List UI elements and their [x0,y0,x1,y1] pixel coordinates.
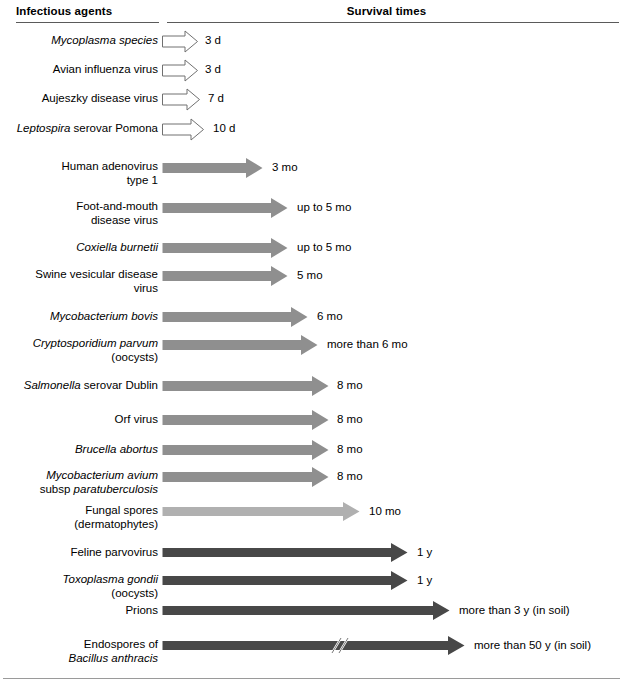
survival-arrow-5 [162,197,290,219]
survival-value-13: 8 mo [337,470,363,482]
survival-arrow-16 [162,570,410,591]
survival-arrow-4 [162,157,265,179]
row-label-7: Swine vesicular diseasevirus [0,268,158,295]
survival-value-3: 10 d [213,122,235,134]
survival-value-4: 3 mo [272,161,298,173]
survival-value-16: 1 y [417,574,432,586]
survival-value-8: 6 mo [317,310,343,322]
row-label-2: Aujeszky disease virus [0,92,158,106]
survival-arrow-0 [162,30,200,53]
row-label-3: Leptospira serovar Pomona [0,122,158,136]
survival-value-11: 8 mo [337,413,363,425]
row-label-10: Salmonella serovar Dublin [0,379,158,393]
survival-arrow-2 [162,88,202,111]
survival-value-12: 8 mo [337,443,363,455]
column-header-survival-times: Survival times [0,5,623,17]
survival-arrow-12 [162,439,331,461]
survival-arrow-6 [162,237,290,259]
survival-arrow-11 [162,409,331,431]
survival-value-18: more than 50 y (in soil) [474,639,591,651]
survival-value-5: up to 5 mo [297,201,351,213]
survival-arrow-9 [162,334,320,356]
header-rule-right [167,22,619,23]
survival-value-9: more than 6 mo [327,338,408,350]
survival-value-6: up to 5 mo [297,241,351,253]
row-label-11: Orf virus [0,413,158,427]
survival-arrow-8 [162,306,310,328]
row-label-13: Mycobacterium aviumsubsp paratuberculosi… [0,469,158,496]
survival-arrow-1 [162,59,200,82]
survival-value-7: 5 mo [297,269,323,281]
row-label-4: Human adenovirustype 1 [0,160,158,187]
row-label-17: Prions [0,604,158,618]
row-label-6: Coxiella burnetii [0,241,158,255]
survival-arrow-3 [162,118,206,141]
survival-value-14: 10 mo [369,505,401,517]
row-label-15: Feline parvovirus [0,546,158,560]
row-label-1: Avian influenza virus [0,63,158,77]
row-label-18: Endospores ofBacillus anthracis [0,638,158,665]
row-label-0: Mycoplasma species [0,34,158,48]
survival-value-10: 8 mo [337,379,363,391]
survival-times-figure: Infectious agents Survival times Mycopla… [0,0,623,683]
survival-arrow-15 [162,542,410,563]
header-rule-left [16,22,159,23]
survival-value-1: 3 d [205,63,221,75]
row-label-14: Fungal spores(dermatophytes) [0,504,158,531]
survival-value-17: more than 3 y (in soil) [459,604,570,616]
survival-arrow-14 [162,501,362,522]
survival-arrow-17 [162,600,452,621]
row-label-8: Mycobacterium bovis [0,310,158,324]
survival-arrow-18 [162,635,467,656]
survival-value-2: 7 d [208,92,224,104]
survival-value-15: 1 y [417,546,432,558]
survival-arrow-13 [162,466,331,488]
row-label-5: Foot-and-mouthdisease virus [0,200,158,227]
survival-arrow-10 [162,375,331,397]
figure-bottom-rule [3,678,620,679]
row-label-12: Brucella abortus [0,443,158,457]
row-label-16: Toxoplasma gondii(oocysts) [0,573,158,600]
survival-arrow-7 [162,265,290,287]
row-label-9: Cryptosporidium parvum(oocysts) [0,337,158,364]
survival-value-0: 3 d [205,34,221,46]
